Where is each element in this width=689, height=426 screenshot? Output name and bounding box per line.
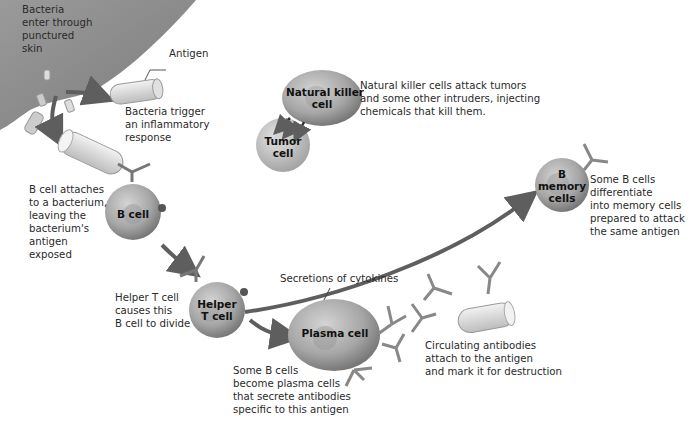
nk-cell-label: Natural killer cell [286, 86, 358, 110]
label-helper-description: Helper T cell causes this B cell to divi… [115, 291, 190, 330]
label-plasma-description: Some B cells become plasma cells that se… [233, 364, 351, 416]
label-nk-description: Natural killer cells attack tumors and s… [360, 79, 540, 118]
label-cytokines: Secretions of cytokines [280, 272, 398, 285]
label-bacteria-enter: Bacteria enter through punctured skin [22, 3, 92, 55]
label-antigen: Antigen [169, 47, 208, 60]
label-circulating-antibodies: Circulating antibodies attach to the ant… [425, 339, 562, 378]
label-bacteria-trigger: Bacteria trigger an inflammatory respons… [125, 105, 209, 144]
b-cell-label: B cell [108, 208, 158, 220]
tumor-cell-label: Tumor cell [258, 135, 308, 159]
immune-diagram: Bacteria enter through punctured skin An… [0, 0, 689, 426]
label-memory-description: Some B cells differentiate into memory c… [590, 173, 685, 238]
memory-cell-label: B memory cells [537, 168, 587, 204]
helper-cell-label: Helper T cell [192, 298, 242, 322]
label-bcell-attaches: B cell attaches to a bacterium, leaving … [29, 183, 107, 261]
plasma-cell-label: Plasma cell [300, 327, 370, 339]
